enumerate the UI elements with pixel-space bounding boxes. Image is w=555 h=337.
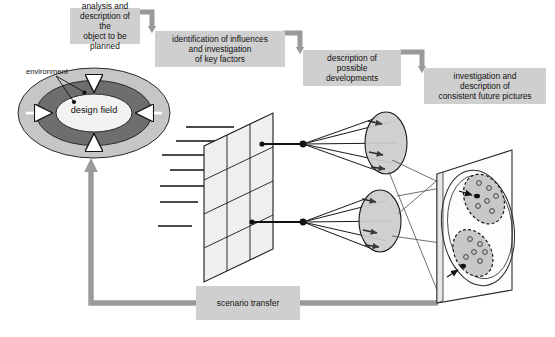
connector-identification-to-developments (283, 33, 304, 54)
analysis-box-line-2: description of the (75, 11, 135, 31)
identification-box-line-2: and investigation (172, 44, 268, 54)
developments-box[interactable]: description of possible developments (303, 50, 401, 86)
future-pictures-panel (434, 150, 521, 303)
development-cone-upper (303, 112, 407, 174)
design-field-label-line-2: field (100, 105, 117, 115)
design-field-label: design field (64, 105, 124, 116)
developments-box-line-1: description of (326, 53, 378, 63)
design-field-label-line-1: design (71, 105, 98, 115)
future-pictures-box-line-1: investigation and (438, 71, 531, 81)
future-pictures-box-line-3: consistent future pictures (438, 91, 531, 101)
connector-developments-to-future-pictures (400, 52, 426, 73)
developments-box-line-2: possible (326, 63, 378, 73)
scenario-transfer-text: scenario transfer (217, 298, 279, 308)
identification-box-line-3: of key factors (172, 54, 268, 64)
environment-label: environment (26, 67, 68, 76)
scenario-transfer-label[interactable]: scenario transfer (196, 286, 300, 320)
analysis-box-line-1: analysis and (75, 1, 135, 11)
development-cone-lower (303, 190, 401, 252)
analysis-box[interactable]: analysis and description of the object t… (70, 8, 140, 44)
developments-box-line-3: developments (326, 73, 378, 83)
identification-box[interactable]: identification of influences and investi… (155, 31, 285, 67)
analysis-box-line-3: object to be planned (75, 31, 135, 51)
identification-box-line-1: identification of influences (172, 34, 268, 44)
diagram-canvas: analysis and description of the object t… (0, 0, 555, 337)
future-pictures-box-line-2: description of (438, 81, 531, 91)
future-pictures-box[interactable]: investigation and description of consist… (424, 68, 546, 104)
